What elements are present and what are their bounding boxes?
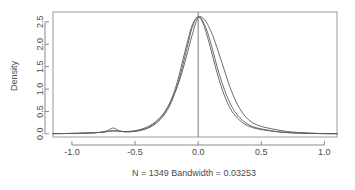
x-tick-label: -1.0 <box>64 147 80 157</box>
plot-canvas: -1.0-0.50.00.51.0 0.00.51.01.52.02.5 Den… <box>0 0 355 190</box>
x-tick-label: 0.5 <box>255 147 268 157</box>
y-tick-label: 2.0 <box>35 38 45 51</box>
density-plot-figure: -1.0-0.50.00.51.0 0.00.51.01.52.02.5 Den… <box>0 0 355 190</box>
y-tick-label: 1.0 <box>35 83 45 96</box>
x-tick-label: 0.0 <box>192 147 205 157</box>
x-tick-label: 1.0 <box>318 147 331 157</box>
y-axis-title: Density <box>9 60 19 91</box>
y-tick-label: 0.5 <box>35 105 45 118</box>
y-tick-label: 2.5 <box>35 16 45 29</box>
x-axis-caption: N = 1349 Bandwidth = 0.03253 <box>132 168 256 178</box>
y-tick-label: 0.0 <box>35 128 45 141</box>
x-tick-label: -0.5 <box>127 147 143 157</box>
y-tick-label: 1.5 <box>35 60 45 73</box>
